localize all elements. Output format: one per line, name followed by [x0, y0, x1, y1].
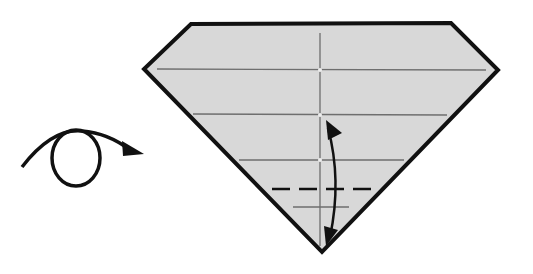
- origami-diagram: [0, 0, 533, 274]
- turn-over-arrow-icon: [22, 130, 144, 186]
- paper-shape: [144, 23, 498, 252]
